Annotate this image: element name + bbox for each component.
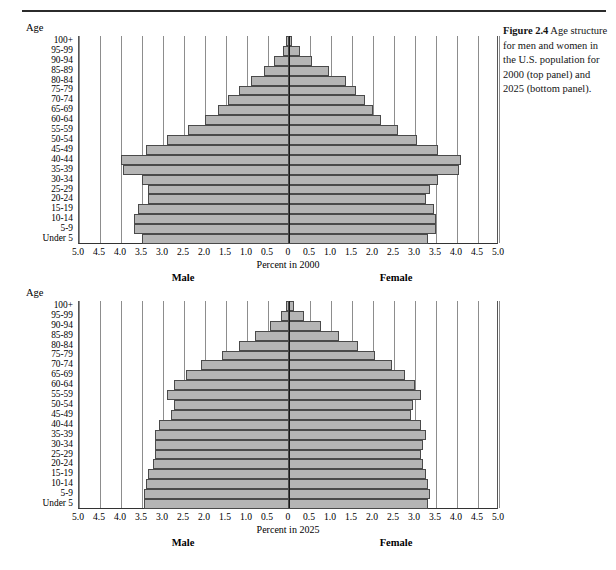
x-tick-label: 1.0: [240, 246, 252, 257]
age-group-row: [79, 469, 497, 479]
bar-female: [289, 214, 436, 224]
bar-female: [289, 234, 428, 244]
bar-male: [201, 360, 289, 370]
bar-male: [142, 234, 289, 244]
x-axis-title-top: Percent in 2000: [257, 259, 320, 270]
bar-female: [289, 145, 438, 155]
bar-female: [289, 86, 356, 96]
bar-male: [218, 105, 289, 115]
bar-male: [171, 410, 289, 420]
y-tick-label: 50-54: [51, 135, 73, 144]
bar-female: [289, 105, 373, 115]
bar-female: [289, 185, 430, 195]
y-tick-label: 35-39: [51, 430, 73, 439]
bar-female: [289, 224, 436, 234]
age-group-row: [79, 155, 497, 165]
age-group-row: [79, 450, 497, 460]
female-label-bottom: Female: [380, 537, 413, 548]
age-group-row: [79, 36, 497, 46]
bar-male: [274, 56, 289, 66]
bar-male: [123, 165, 289, 175]
bar-male: [167, 135, 289, 145]
bar-male: [205, 115, 289, 125]
age-group-row: [79, 234, 497, 244]
bar-female: [289, 459, 423, 469]
x-tick-label: 4.5: [471, 246, 483, 257]
y-tick-label: 85-89: [51, 66, 73, 75]
bar-male: [264, 66, 289, 76]
bar-female: [289, 76, 346, 86]
y-tick-label: 35-39: [51, 165, 73, 174]
age-group-row: [79, 66, 497, 76]
x-tick-label: 1.0: [324, 246, 336, 257]
x-tick-label: 2.5: [387, 246, 399, 257]
x-tick-label: 3.0: [156, 246, 168, 257]
age-group-row: [79, 410, 497, 420]
gridline: [499, 301, 500, 508]
bar-male: [142, 175, 289, 185]
bar-female: [289, 351, 375, 361]
age-group-row: [79, 115, 497, 125]
age-group-row: [79, 459, 497, 469]
bar-male: [148, 194, 289, 204]
x-tick-label: 4.5: [471, 511, 483, 522]
bar-female: [289, 390, 421, 400]
bar-male: [148, 469, 289, 479]
x-tick-label: 0: [286, 511, 291, 522]
bar-female: [289, 165, 459, 175]
top-divider-rule: [22, 10, 606, 12]
bar-female: [289, 194, 426, 204]
age-group-row: [79, 420, 497, 430]
age-group-row: [79, 105, 497, 115]
x-tick-label: 1.5: [345, 511, 357, 522]
bar-male: [121, 155, 289, 165]
female-label-top: Female: [380, 272, 413, 283]
bar-female: [289, 499, 428, 509]
x-axis-ticks-top: 5.04.54.03.53.02.52.01.51.00.500.51.01.5…: [78, 246, 498, 260]
x-tick-label: 2.0: [366, 511, 378, 522]
y-tick-label: 45-49: [51, 145, 73, 154]
y-tick-label: 40-44: [51, 420, 73, 429]
bar-female: [289, 204, 434, 214]
bar-male: [239, 341, 289, 351]
age-group-row: [79, 370, 497, 380]
age-group-row: [79, 165, 497, 175]
x-tick-label: 0.5: [261, 511, 273, 522]
age-group-row: [79, 341, 497, 351]
y-axis-labels-top: 100+95-9990-9485-8980-8475-7970-7465-696…: [0, 36, 75, 244]
age-group-row: [79, 499, 497, 509]
age-group-row: [79, 145, 497, 155]
bar-male: [159, 420, 289, 430]
bar-female: [289, 95, 365, 105]
y-tick-label: Under 5: [43, 499, 73, 508]
bar-female: [289, 125, 398, 135]
figure-number: Figure 2.4: [503, 25, 548, 36]
bar-female: [289, 155, 461, 165]
age-group-row: [79, 46, 497, 56]
age-group-row: [79, 125, 497, 135]
bar-male: [222, 351, 289, 361]
bar-male: [281, 311, 289, 321]
bar-female: [289, 341, 358, 351]
x-tick-label: 2.0: [198, 246, 210, 257]
x-tick-label: 2.5: [387, 511, 399, 522]
x-tick-label: 3.5: [135, 511, 147, 522]
x-tick-label: 4.0: [114, 246, 126, 257]
bar-female: [289, 489, 430, 499]
x-tick-label: 1.5: [219, 246, 231, 257]
age-group-row: [79, 380, 497, 390]
bar-male: [155, 450, 289, 460]
x-axis-ticks-bottom: 5.04.54.03.53.02.52.01.51.00.500.51.01.5…: [78, 511, 498, 525]
bar-male: [138, 204, 289, 214]
y-axis-title-top: Age: [26, 22, 44, 33]
x-tick-label: 1.5: [219, 511, 231, 522]
bar-female: [289, 331, 339, 341]
y-tick-label: 95-99: [51, 46, 73, 55]
x-tick-label: 1.5: [345, 246, 357, 257]
bar-male: [186, 370, 289, 380]
zero-axis-line-bottom: [289, 301, 290, 508]
age-group-row: [79, 351, 497, 361]
x-tick-label: 0.5: [261, 246, 273, 257]
x-tick-label: 0.5: [303, 246, 315, 257]
bar-male: [251, 76, 289, 86]
